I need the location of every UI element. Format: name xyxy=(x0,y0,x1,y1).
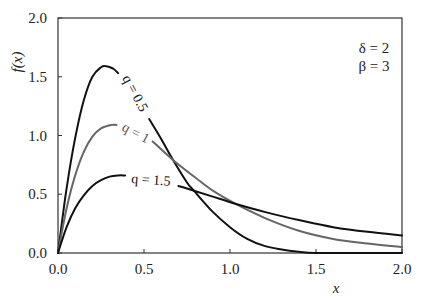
y-axis-ticks: 0.00.51.01.52.0 xyxy=(28,10,62,261)
x-tick-label: 0.0 xyxy=(49,261,68,277)
y-tick-label: 0.5 xyxy=(28,186,47,202)
y-tick-label: 0.0 xyxy=(28,245,47,261)
curve-q-0-5 xyxy=(149,119,402,253)
curve-q-1-5 xyxy=(58,175,125,253)
curve-label-q1: q = 1 xyxy=(120,119,153,146)
curve-label-q05: q = 0.5 xyxy=(119,72,151,114)
x-tick-label: 1.0 xyxy=(221,261,240,277)
y-axis-title: f(x) xyxy=(9,52,26,73)
curves xyxy=(58,66,402,253)
x-tick-label: 2.0 xyxy=(393,261,412,277)
annotation-delta: δ = 2 xyxy=(359,40,390,56)
y-tick-label: 2.0 xyxy=(28,10,47,26)
x-tick-label: 0.5 xyxy=(135,261,154,277)
y-tick-label: 1.0 xyxy=(28,128,47,144)
x-axis-title: x xyxy=(332,280,340,296)
y-tick-label: 1.5 xyxy=(28,69,47,85)
annotation-beta: β = 3 xyxy=(358,58,389,74)
curve-label-q15: q = 1.5 xyxy=(131,171,171,189)
chart: 0.00.51.01.52.0 0.00.51.01.52.0 x f(x) δ… xyxy=(0,0,421,303)
x-tick-label: 1.5 xyxy=(307,261,326,277)
plot-frame xyxy=(58,18,402,253)
